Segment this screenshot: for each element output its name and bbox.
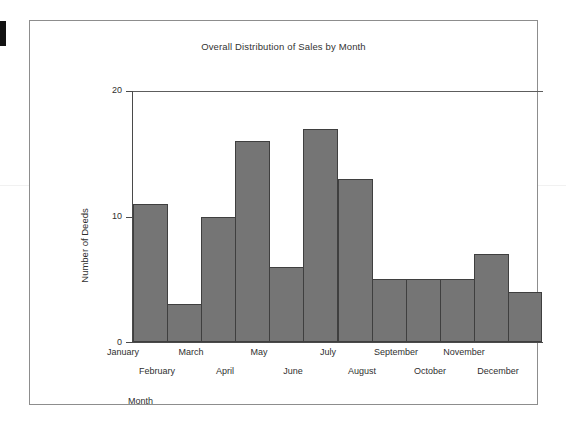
scan-edge-artifact — [0, 21, 6, 46]
x-tick-label-june: June — [253, 366, 333, 376]
bar-may[interactable] — [269, 267, 304, 342]
bar-april[interactable] — [235, 141, 270, 342]
plot-area — [133, 91, 542, 342]
bar-february[interactable] — [167, 304, 202, 342]
y-axis-title: Number of Deeds — [79, 186, 90, 306]
x-tick-label-november: November — [424, 347, 504, 357]
bar-january[interactable] — [133, 204, 168, 342]
y-tick-mark-20 — [126, 91, 132, 92]
x-tick-label-may: May — [219, 347, 299, 357]
chart-title: Overall Distribution of Sales by Month — [30, 41, 537, 52]
x-axis-title: Month — [128, 396, 153, 406]
bar-october[interactable] — [440, 279, 475, 342]
y-tick-label-0: 0 — [92, 337, 122, 347]
bar-december[interactable] — [508, 292, 542, 342]
bar-august[interactable] — [372, 279, 407, 342]
y-tick-label-10: 10 — [92, 211, 122, 221]
bar-november[interactable] — [474, 254, 509, 342]
bar-september[interactable] — [406, 279, 441, 342]
figure-frame: Overall Distribution of Sales by Month 0… — [29, 20, 538, 405]
bar-june[interactable] — [303, 129, 338, 342]
x-axis-line — [133, 342, 543, 343]
y-tick-label-20: 20 — [92, 85, 122, 95]
y-tick-mark-10 — [126, 217, 132, 218]
bar-march[interactable] — [201, 217, 236, 343]
y-tick-mark-0 — [126, 342, 132, 343]
x-tick-label-december: December — [458, 366, 538, 376]
bar-july[interactable] — [338, 179, 373, 342]
